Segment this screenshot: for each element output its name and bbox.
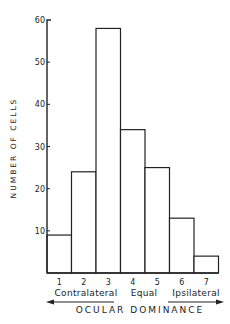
ocular-dominance-histogram: 102030405060 1234567 NUMBER OF CELLS Con…: [0, 0, 230, 324]
y-tick-label-60: 60: [35, 16, 45, 25]
x-category-labels-group: 1234567: [57, 278, 209, 287]
bar-7: [194, 256, 219, 273]
y-tick-label-40: 40: [35, 100, 45, 109]
group-label-equal: Equal: [131, 288, 158, 298]
y-tick-label-30: 30: [35, 143, 45, 152]
x-tick-label-6: 6: [179, 278, 184, 287]
bar-6: [170, 218, 195, 273]
x-tick-label-1: 1: [57, 278, 62, 287]
x-tick-label-3: 3: [106, 278, 111, 287]
bar-5: [145, 168, 170, 273]
x-tick-label-2: 2: [81, 278, 86, 287]
y-ticks-group: 102030405060: [35, 16, 50, 236]
y-tick-label-10: 10: [35, 227, 45, 236]
x-tick-label-5: 5: [155, 278, 160, 287]
x-tick-label-7: 7: [204, 278, 209, 287]
y-axis-title: NUMBER OF CELLS: [9, 98, 18, 199]
bars-group: [47, 28, 219, 273]
group-label-contralateral: Contralateral: [55, 288, 118, 298]
left-arrow-icon: [46, 300, 114, 305]
x-axis-title: OCULAR DOMINANCE: [76, 305, 204, 315]
y-tick-label-50: 50: [35, 58, 45, 67]
y-tick-label-20: 20: [35, 185, 45, 194]
x-tick-label-4: 4: [130, 278, 135, 287]
bar-2: [72, 172, 97, 273]
bar-1: [47, 235, 72, 273]
bar-4: [121, 130, 146, 273]
right-arrow-icon: [168, 300, 224, 305]
bar-3: [96, 28, 121, 273]
group-label-ipsilateral: Ipsilateral: [172, 288, 220, 298]
